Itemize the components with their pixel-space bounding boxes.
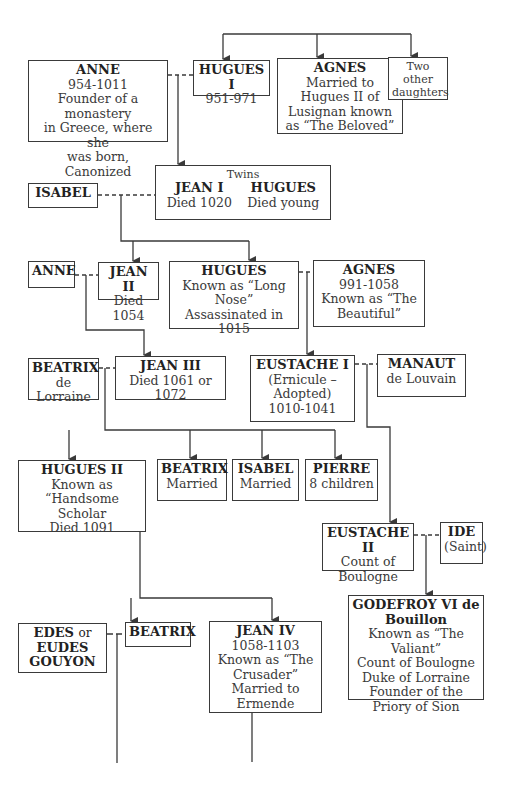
person-eustache-ii: EUSTACHE II Count of Boulogne [322, 523, 414, 571]
person-godefroy: GODEFROY VI de Bouillon Known as “The Va… [348, 595, 484, 700]
person-isabel-spouse: ISABEL [28, 183, 98, 208]
person-pierre: PIERRE 8 children [305, 459, 378, 501]
person-jean-iii: JEAN III Died 1061 or 1072 [115, 356, 226, 400]
person-jean-i: JEAN I Died 1020 [167, 181, 232, 210]
person-beatrix-married: BEATRIX Married [157, 459, 227, 501]
person-manaut: MANAUT de Louvain [377, 354, 466, 397]
person-anne-954: ANNE 954-1011 Founder of a monastery in … [28, 60, 168, 142]
person-beatrix-lorraine: BEATRIX de Lorraine [28, 358, 99, 400]
person-hugues-ii: HUGUES II Known as “Handsome Scholar Die… [18, 460, 146, 532]
person-jean-ii: JEAN II Died 1054 [98, 262, 159, 300]
person-two-other-daughters: Two other daughters [388, 57, 448, 100]
person-ide: IDE (Saint) [440, 522, 483, 564]
person-hugues-twin: HUGUES Died young [247, 181, 319, 210]
person-jean-iv: JEAN IV 1058-1103 Known as “The Crusader… [209, 621, 322, 713]
person-hugues-i: HUGUES I 951-971 [193, 60, 270, 96]
person-agnes-beloved: AGNES Married to Hugues II of Lusignan k… [277, 58, 403, 134]
person-beatrix-bottom: BEATRIX [125, 622, 191, 647]
person-hugues-long-nose: HUGUES Known as “Long Nose” Assassinated… [169, 261, 299, 329]
person-anne-spouse: ANNE [28, 261, 75, 288]
twins-box: Twins JEAN I Died 1020 HUGUES Died young [155, 165, 331, 220]
person-name: ANNE [32, 63, 164, 78]
person-edes: EDES or EUDES GOUYON [18, 623, 107, 673]
person-eustache-i: EUSTACHE I (Ernicule – Adopted) 1010-104… [250, 355, 355, 422]
person-isabel-married: ISABEL Married [232, 459, 299, 501]
person-agnes-beautiful: AGNES 991-1058 Known as “The Beautiful” [313, 260, 425, 327]
